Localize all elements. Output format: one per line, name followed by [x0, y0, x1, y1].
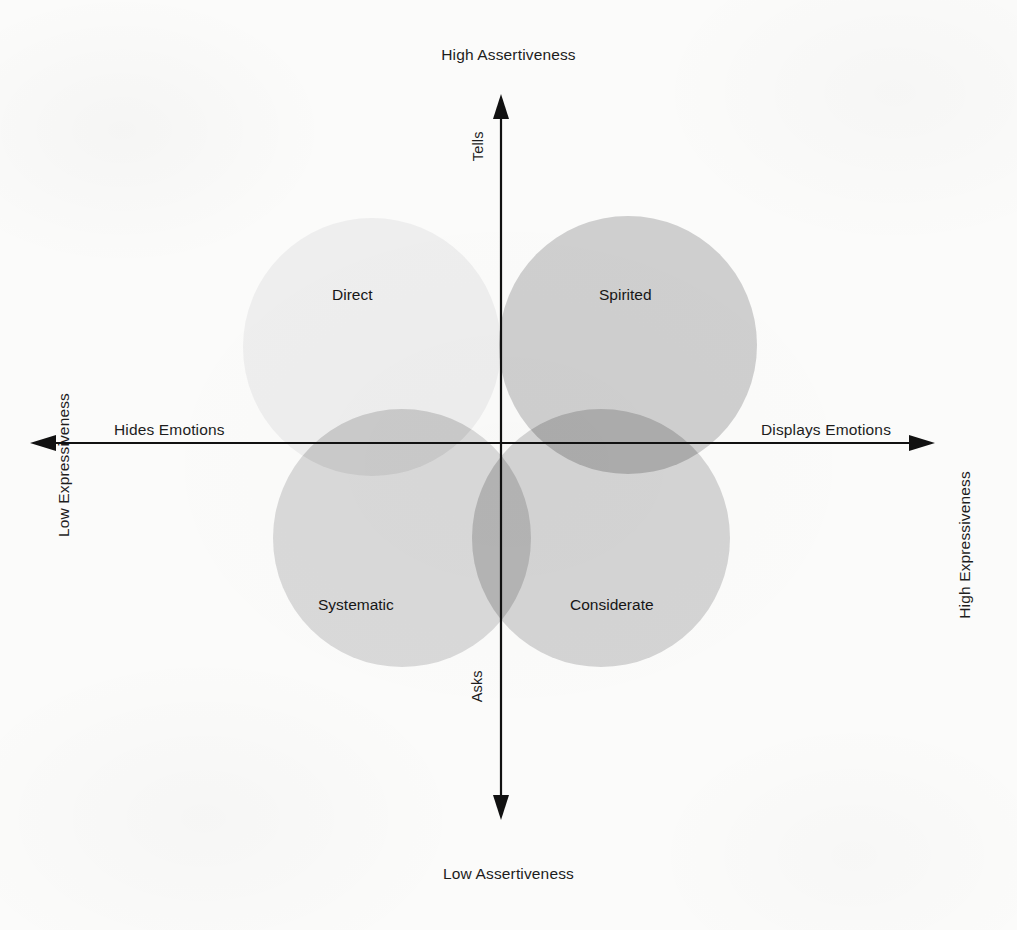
diagram-canvas: Direct Spirited Systematic Considerate H… [0, 0, 1017, 930]
circle-label-considerate: Considerate [570, 597, 654, 613]
circle-label-spirited: Spirited [599, 287, 652, 303]
venn-circle-group [0, 0, 1017, 930]
circle-label-systematic: Systematic [318, 597, 394, 613]
circle-label-direct: Direct [332, 287, 372, 303]
circle-considerate [472, 409, 730, 667]
